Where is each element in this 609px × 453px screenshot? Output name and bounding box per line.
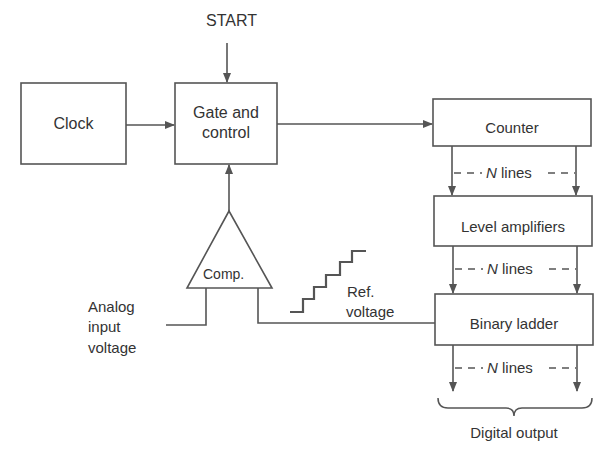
gate-label-line2: control (175, 124, 277, 142)
digital-output-brace (438, 398, 592, 416)
analog-label-line2: input (88, 318, 121, 336)
analog-input-wire (166, 288, 206, 325)
analog-label-line3: voltage (88, 339, 136, 357)
n-lines-label-1: N lines (486, 164, 532, 182)
analog-label-line1: Analog (88, 298, 135, 316)
clock-label: Clock (21, 115, 126, 133)
n-lines-label-3: N lines (487, 359, 533, 377)
level-amplifiers-label: Level amplifiers (434, 218, 592, 236)
digital-output-label: Digital output (433, 424, 595, 442)
n-lines-label-2: N lines (487, 260, 533, 278)
binary-ladder-label: Binary ladder (435, 315, 593, 333)
start-label: START (206, 12, 257, 30)
counter-label: Counter (433, 119, 591, 137)
gate-label-line1: Gate and (175, 104, 277, 122)
comparator-label: Comp. (203, 265, 244, 283)
ref-label-line1: Ref. (347, 283, 375, 301)
ref-label-line2: voltage (346, 303, 394, 321)
